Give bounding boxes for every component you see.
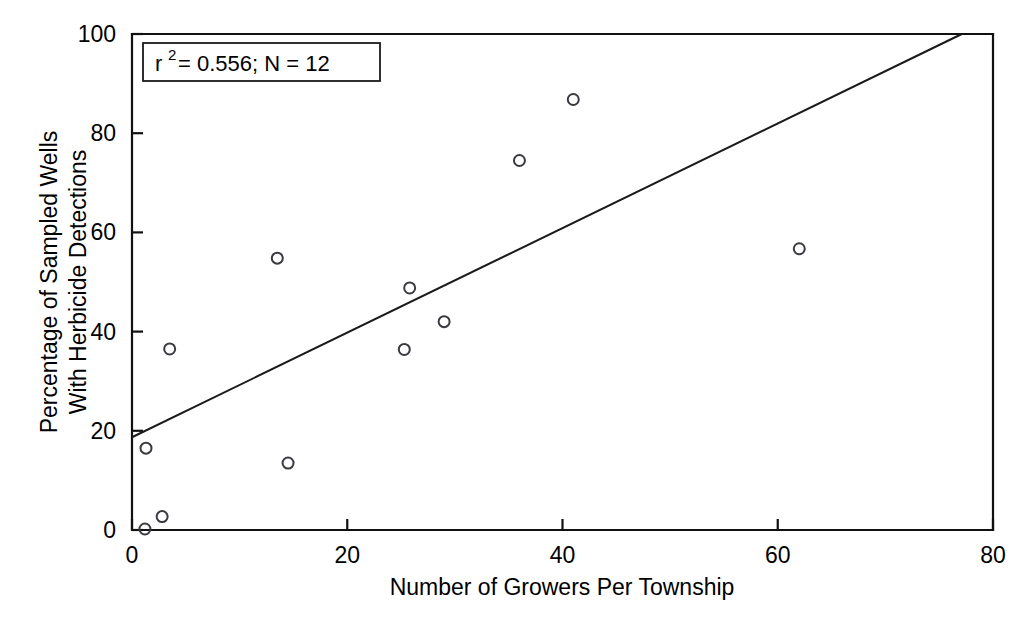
x-axis-ticks xyxy=(132,519,993,530)
data-point xyxy=(404,282,415,293)
x-axis-label: Number of Growers Per Township xyxy=(390,574,735,600)
x-tick-label: 80 xyxy=(980,542,1006,568)
y-tick-label: 20 xyxy=(90,418,116,444)
figure-container: 020406080100 020406080 Number of Growers… xyxy=(0,0,1036,617)
data-points-group xyxy=(139,94,804,535)
y-tick-label: 40 xyxy=(90,319,116,345)
data-point xyxy=(272,253,283,264)
scatter-plot: 020406080100 020406080 Number of Growers… xyxy=(0,0,1036,617)
data-point xyxy=(399,344,410,355)
data-point xyxy=(283,458,294,469)
x-axis-tick-labels: 020406080 xyxy=(126,542,1006,568)
data-point xyxy=(140,443,151,454)
y-tick-label: 80 xyxy=(90,120,116,146)
y-tick-label: 0 xyxy=(103,517,116,543)
x-tick-label: 60 xyxy=(765,542,791,568)
axis-frame xyxy=(132,34,993,530)
x-tick-label: 0 xyxy=(126,542,139,568)
stats-annotation-exponent: 2 xyxy=(168,46,176,63)
data-point xyxy=(439,316,450,327)
regression-trendline xyxy=(132,34,962,437)
stats-annotation-text: = 0.556; N = 12 xyxy=(178,51,330,76)
y-axis-label-line2: With Herbicide Detections xyxy=(65,150,91,415)
data-point xyxy=(568,94,579,105)
data-point xyxy=(514,155,525,166)
y-tick-label: 100 xyxy=(78,21,116,47)
data-point xyxy=(164,343,175,354)
data-point xyxy=(794,243,805,254)
y-axis-label-line1: Percentage of Sampled Wells xyxy=(36,131,62,434)
stats-annotation-r: r xyxy=(155,51,162,76)
x-tick-label: 40 xyxy=(550,542,576,568)
data-point xyxy=(157,511,168,522)
x-tick-label: 20 xyxy=(334,542,360,568)
y-tick-label: 60 xyxy=(90,219,116,245)
y-axis-ticks xyxy=(132,34,143,530)
